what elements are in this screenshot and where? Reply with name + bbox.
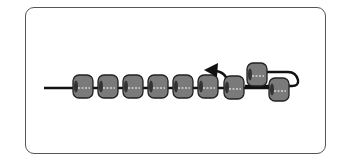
bead bbox=[98, 75, 118, 98]
bead-diagram bbox=[0, 0, 344, 162]
bead bbox=[224, 76, 244, 99]
raised-bead bbox=[247, 63, 267, 86]
bead bbox=[123, 75, 143, 98]
bead bbox=[148, 75, 168, 98]
bead bbox=[198, 75, 218, 98]
bead bbox=[269, 78, 289, 101]
bead bbox=[173, 75, 193, 98]
bead bbox=[73, 75, 93, 98]
